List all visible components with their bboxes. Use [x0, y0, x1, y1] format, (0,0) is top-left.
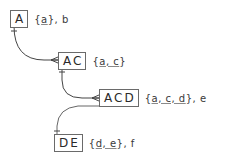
entity-box[interactable]: DE [54, 134, 83, 152]
entity-box[interactable]: AC [58, 52, 86, 70]
key-attributes: d, e [96, 138, 117, 149]
key-attributes: a, c [99, 56, 119, 67]
entity-box[interactable]: A [10, 10, 28, 28]
attribute-list: {a}, b [34, 14, 69, 25]
node-ac[interactable]: AC {a, c} [58, 52, 126, 70]
edge-ac-to-acd [62, 70, 99, 98]
attribute-list: {a, c} [92, 56, 126, 67]
key-attributes: a, c, d [152, 93, 186, 104]
edge-acd-to-de [57, 106, 99, 134]
crow-foot-icon [92, 95, 99, 101]
attribute-list: {a, c, d}, e [145, 93, 207, 104]
key-attributes: a [41, 14, 48, 25]
crow-foot-icon [51, 57, 58, 63]
node-acd[interactable]: ACD {a, c, d}, e [99, 89, 207, 107]
entity-box[interactable]: ACD [99, 89, 139, 107]
node-de[interactable]: DE {d, e}, f [54, 134, 135, 152]
attribute-list: {d, e}, f [89, 138, 135, 149]
node-a[interactable]: A {a}, b [10, 10, 69, 28]
